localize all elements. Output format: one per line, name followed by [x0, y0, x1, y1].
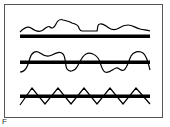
row-2-baseline [20, 61, 150, 65]
row-1-baseline [20, 35, 150, 39]
diagram-canvas [0, 0, 170, 127]
panel-label: F [2, 117, 7, 126]
